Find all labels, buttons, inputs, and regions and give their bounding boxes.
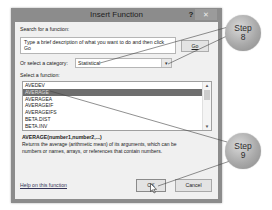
function-description: Returns the average (arithmetic mean) of… <box>22 141 192 154</box>
function-list-item-selected[interactable]: AVERAGE <box>23 89 205 96</box>
cancel-button[interactable]: Cancel <box>175 179 212 192</box>
close-button[interactable]: ✕ <box>195 9 217 20</box>
scroll-down-icon[interactable]: ▼ <box>203 123 211 130</box>
function-list-item[interactable]: AVERAGEA <box>23 96 205 103</box>
search-label: Search for a function: <box>20 26 69 32</box>
scroll-up-icon[interactable]: ▲ <box>203 82 211 89</box>
function-list-item[interactable]: BETA.DIST <box>23 116 205 123</box>
select-function-label: Select a function: <box>20 72 60 78</box>
scrollbar-thumb[interactable] <box>204 90 210 100</box>
search-function-input[interactable]: Type a brief description of what you wan… <box>20 37 176 54</box>
function-list-item[interactable]: AVERAGEIFS <box>23 109 205 116</box>
insert-function-dialog: Insert Function ? ✕ Search for a functio… <box>11 8 222 203</box>
function-list-item[interactable]: BETA.INV <box>23 123 205 130</box>
close-icon: ✕ <box>203 11 209 18</box>
dialog-body: Search for a function: Type a brief desc… <box>15 22 218 199</box>
step-number: 9 <box>241 151 246 160</box>
category-select[interactable]: Statistical ▾ <box>75 58 172 68</box>
help-question-button[interactable]: ? <box>187 10 195 20</box>
chevron-down-icon[interactable]: ▾ <box>161 59 171 67</box>
step-number: 8 <box>241 33 246 42</box>
category-label: Or select a category: <box>20 60 68 66</box>
function-list-item[interactable]: AVERAGEIF <box>23 102 205 109</box>
title-bar[interactable]: Insert Function ? ✕ <box>11 8 222 22</box>
help-on-function-link[interactable]: Help on this function <box>20 182 67 188</box>
function-list[interactable]: AVEDEV AVERAGE AVERAGEA AVERAGEIF AVERAG… <box>22 81 212 131</box>
category-value: Statistical <box>78 60 100 66</box>
go-button[interactable]: Go <box>181 40 209 52</box>
function-signature: AVERAGE(number1,number2,...) <box>22 134 102 140</box>
mouse-pointer-icon <box>150 183 158 194</box>
step-8-callout: Step 8 <box>225 15 261 51</box>
function-list-scrollbar[interactable]: ▲ ▼ <box>202 82 211 130</box>
function-list-item[interactable]: AVEDEV <box>23 82 205 89</box>
step-9-callout: Step 9 <box>225 133 261 169</box>
